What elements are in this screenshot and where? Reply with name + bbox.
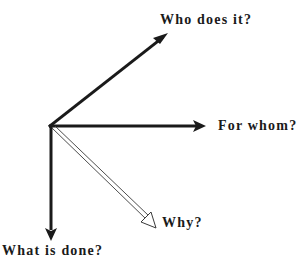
- label-why: Why?: [162, 215, 203, 231]
- label-who-does-it: Who does it?: [160, 12, 252, 28]
- origin-point: [49, 125, 52, 128]
- who-does-it-arrow: [50, 33, 168, 126]
- label-what-is-done: What is done?: [2, 243, 103, 259]
- hollow-arrowhead-icon: [141, 212, 156, 228]
- diagram-canvas: Who does it? For whom? Why? What is done…: [0, 0, 304, 262]
- label-for-whom: For whom?: [218, 118, 297, 134]
- what-is-done-arrow: [45, 126, 57, 241]
- for-whom-arrow: [50, 120, 206, 132]
- why-arrow: [52, 126, 156, 228]
